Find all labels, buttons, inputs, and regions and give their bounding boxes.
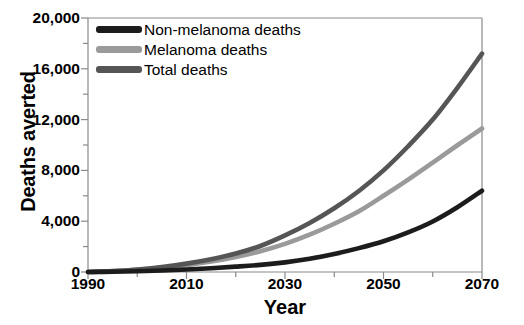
chart-figure: Deaths averted Year 04,0008,00012,00016,… bbox=[0, 0, 524, 325]
legend-color-swatch bbox=[96, 66, 142, 73]
chart-legend: Non-melanoma deathsMelanoma deathsTotal … bbox=[96, 20, 301, 79]
legend-item-label: Melanoma deaths bbox=[144, 42, 267, 58]
series-line bbox=[88, 54, 482, 272]
legend-item: Melanoma deaths bbox=[96, 40, 301, 59]
legend-item-label: Total deaths bbox=[144, 62, 228, 78]
series-line bbox=[88, 191, 482, 272]
legend-color-swatch bbox=[96, 46, 142, 53]
series-line bbox=[88, 128, 482, 272]
legend-item: Total deaths bbox=[96, 60, 301, 79]
legend-item: Non-melanoma deaths bbox=[96, 20, 301, 39]
legend-color-swatch bbox=[96, 26, 142, 33]
y-axis-ticks bbox=[81, 18, 88, 272]
legend-item-label: Non-melanoma deaths bbox=[144, 22, 301, 38]
